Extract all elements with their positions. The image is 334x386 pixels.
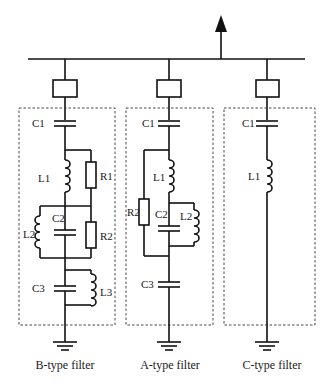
a-type-filter: C1 R2 L1 C2 L2 C3	[126, 59, 213, 372]
resistor-r2	[86, 222, 96, 248]
label-r2: R2	[127, 206, 140, 218]
label-c1: C1	[142, 117, 155, 129]
resistor-r2	[139, 199, 149, 225]
label-l3: L3	[100, 286, 113, 298]
c-type-filter: C1 L1 C-type filter	[224, 59, 315, 372]
label-l1: L1	[248, 170, 260, 182]
resistor-r1	[86, 162, 96, 188]
label-r1: R1	[100, 170, 113, 182]
label-c2: C2	[52, 212, 65, 224]
filter-circuit-diagram: C1 L1 R1 L2 C2 R2 C3	[0, 0, 334, 386]
c-filter-boundary	[224, 108, 315, 325]
c-filter-caption: C-type filter	[243, 358, 302, 372]
breaker-box	[53, 80, 77, 97]
inductor-l1	[169, 160, 174, 192]
arrow-up-icon	[215, 15, 227, 32]
inductor-l3	[91, 274, 96, 306]
b-type-filter: C1 L1 R1 L2 C2 R2 C3	[19, 59, 115, 372]
label-c1: C1	[32, 117, 45, 129]
label-r2: R2	[100, 230, 113, 242]
b-filter-caption: B-type filter	[36, 358, 95, 372]
label-l1: L1	[38, 172, 50, 184]
label-l2: L2	[23, 228, 35, 240]
a-filter-caption: A-type filter	[140, 358, 200, 372]
breaker-box	[256, 80, 279, 97]
ground-icon	[255, 342, 279, 350]
inductor-l1	[267, 160, 272, 192]
label-c3: C3	[32, 282, 45, 294]
label-l2: L2	[180, 210, 192, 222]
ground-icon	[53, 342, 77, 350]
inductor-l2	[35, 216, 40, 248]
label-l1: L1	[153, 171, 165, 183]
inductor-l2	[194, 210, 199, 242]
inductor-l1	[65, 160, 70, 192]
label-c1: C1	[242, 117, 255, 129]
breaker-box	[157, 80, 181, 97]
label-c2: C2	[155, 208, 168, 220]
ground-icon	[157, 342, 181, 350]
label-c3: C3	[141, 278, 154, 290]
